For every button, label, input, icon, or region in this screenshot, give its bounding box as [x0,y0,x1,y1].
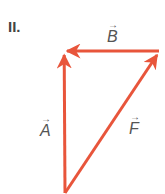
vector-b-text: B [107,28,118,45]
vector-f-label: → F [129,121,139,137]
vector-arrow-icon: → [41,114,51,124]
vector-a-arrow [64,55,65,193]
vector-a-label: → A [40,123,51,139]
vector-f-arrow [65,55,157,193]
vector-triangle-diagram [0,0,165,194]
vector-arrow-icon: → [108,20,118,30]
vector-f-text: F [129,120,139,137]
vector-arrow-icon: → [130,112,140,122]
vector-a-text: A [40,122,51,139]
vector-b-label: → B [107,29,118,45]
